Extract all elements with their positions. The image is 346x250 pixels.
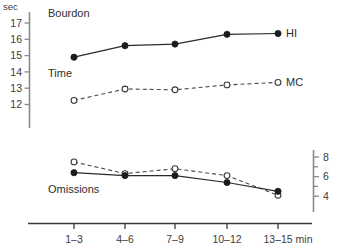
top-tick-label-17: 17 [10,17,22,29]
chart-page: sec 17 16 15 14 13 12 Bourdon Time HI [0,0,346,250]
top-tick-label-16: 16 [10,33,22,45]
series-mc-time-point-2 [172,87,178,93]
bottom-tick-label-8: 8 [323,151,329,163]
top-tick-label-15: 15 [10,49,22,61]
top-tick-label-13: 13 [10,82,22,94]
series-mc-time [71,80,281,104]
x-tick-label-0: 1–3 [65,233,83,245]
series-label-mc: MC [286,76,303,88]
top-tick-label-12: 12 [10,98,22,110]
series-mc-time-point-1 [122,86,128,92]
x-tick-label-4: 13–15 min [263,233,312,245]
series-mc-time-point-0 [71,98,77,104]
series-hi-omissions-point-4 [275,188,281,194]
series-hi-time-point-0 [71,54,77,60]
series-mc-time-point-3 [224,82,230,88]
series-hi-omissions-point-2 [172,173,178,179]
panel-label-omissions: Omissions [48,183,100,195]
panel-title-bourdon: Bourdon [48,7,90,19]
series-mc-omissions-point-0 [71,159,77,165]
top-panel-left-axis [25,12,30,128]
x-axis-tick-labels: 1–3 4–6 7–9 10–12 13–15 min [65,233,312,245]
series-hi-time [71,30,281,60]
top-axis-tick-labels: 17 16 15 14 13 12 [10,17,22,111]
bottom-axis-tick-labels: 8 6 4 [323,151,329,202]
bottom-tick-label-4: 4 [323,190,329,202]
series-mc-omissions-point-3 [224,173,230,179]
series-hi-omissions-point-0 [71,170,77,176]
bourdon-chart-figure: sec 17 16 15 14 13 12 Bourdon Time HI [0,0,346,250]
panel-label-time: Time [48,67,72,79]
y-axis-unit-label: sec [3,1,18,12]
series-label-hi: HI [286,27,297,39]
x-tick-label-2: 7–9 [166,233,184,245]
series-mc-time-point-4 [275,80,281,86]
x-axis [28,224,312,230]
series-hi-omissions [71,170,281,195]
series-hi-time-point-1 [122,43,128,49]
bottom-panel-right-axis [314,150,320,212]
top-tick-label-14: 14 [10,66,22,78]
x-tick-label-3: 10–12 [212,233,241,245]
x-tick-label-1: 4–6 [116,233,134,245]
series-hi-omissions-point-1 [122,173,128,179]
series-hi-omissions-point-3 [224,179,230,185]
bottom-tick-label-6: 6 [323,170,329,182]
series-hi-time-point-2 [172,41,178,47]
series-hi-time-point-3 [224,31,230,37]
series-hi-time-point-4 [275,30,281,36]
series-mc-omissions-point-2 [172,166,178,172]
